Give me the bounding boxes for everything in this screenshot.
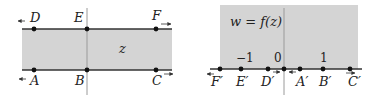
label-a: A <box>29 73 39 88</box>
label-f: F <box>151 8 162 23</box>
z-plane-label: z <box>118 41 126 56</box>
label-cprime: C′ <box>348 74 361 89</box>
point-bprime <box>321 67 326 72</box>
point-fprime <box>218 67 223 72</box>
label-c: C <box>152 73 162 88</box>
point-a <box>32 68 37 73</box>
point-eprime <box>239 67 244 72</box>
label-bprime: B′ <box>318 74 332 89</box>
label-fprime: F′ <box>210 74 223 89</box>
point-c <box>154 68 159 73</box>
point-origin <box>282 67 287 72</box>
label-eprime: E′ <box>235 74 248 89</box>
point-f <box>154 27 159 32</box>
point-dprime <box>266 67 271 72</box>
tick-label-neg1: −1 <box>236 51 254 65</box>
point-cprime <box>348 67 353 72</box>
tick-label-0: 0 <box>274 51 282 65</box>
z-plane-panel: D E F A B C z <box>18 8 173 95</box>
point-b <box>85 68 90 73</box>
label-aprime: A′ <box>295 74 308 89</box>
point-aprime <box>298 67 303 72</box>
label-dprime: D′ <box>260 74 274 89</box>
label-e: E <box>73 10 84 25</box>
point-e <box>85 27 90 32</box>
w-plane-label: w = f(z) <box>230 14 282 29</box>
tick-label-1: 1 <box>320 51 328 65</box>
label-d: D <box>29 10 41 25</box>
z-strip-shading <box>22 29 172 70</box>
conformal-map-diagram: D E F A B C z w = f(z) −1 0 1 F′ E′ D′ <box>0 0 379 97</box>
point-d <box>32 27 37 32</box>
label-b: B <box>74 73 85 88</box>
w-plane-panel: w = f(z) −1 0 1 F′ E′ D′ A′ B′ C′ <box>207 5 362 95</box>
